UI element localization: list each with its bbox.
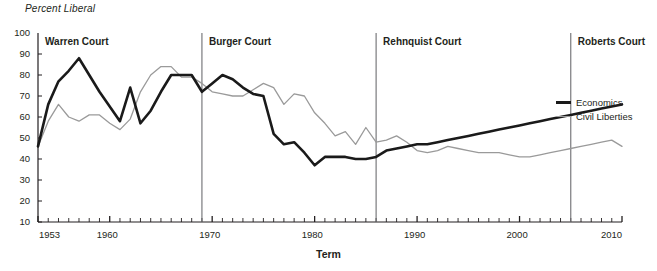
x-tick-label: 1953 — [39, 230, 60, 240]
x-axis-title: Term — [0, 248, 657, 260]
y-tick-label: 10 — [4, 217, 30, 227]
legend-item-civil-liberties: Civil Liberties — [556, 110, 633, 123]
chart-legend: Economics Civil Liberties — [556, 96, 633, 124]
y-axis-title: Percent Liberal — [25, 3, 95, 14]
y-tick-label: 80 — [4, 70, 30, 80]
series-line-civil-liberties — [38, 67, 622, 157]
y-tick-label: 100 — [4, 28, 30, 38]
legend-label-economics: Economics — [576, 97, 622, 108]
legend-swatch-economics-icon — [556, 101, 571, 104]
legend-item-economics: Economics — [556, 96, 633, 109]
y-tick-label: 60 — [4, 112, 30, 122]
era-label-burger-court: Burger Court — [209, 36, 271, 47]
x-tick-label: 2000 — [507, 230, 528, 240]
era-label-roberts-court: Roberts Court — [578, 36, 645, 47]
x-tick-label: 1970 — [199, 230, 220, 240]
series-line-economics — [38, 58, 622, 165]
legend-swatch-civil-liberties-icon — [556, 116, 571, 117]
x-tick-label: 1960 — [97, 230, 118, 240]
x-tick-label: 1990 — [404, 230, 425, 240]
y-tick-label: 90 — [4, 49, 30, 59]
y-tick-label: 40 — [4, 154, 30, 164]
legend-label-civil-liberties: Civil Liberties — [576, 111, 633, 122]
x-tick-label: 2010 — [601, 230, 622, 240]
y-tick-label: 70 — [4, 91, 30, 101]
y-tick-label: 30 — [4, 175, 30, 185]
y-tick-label: 50 — [4, 133, 30, 143]
chart-container: Percent Liberal Term Economics Civil Lib… — [0, 0, 657, 271]
y-tick-label: 20 — [4, 196, 30, 206]
era-label-rehnquist-court: Rehnquist Court — [383, 36, 461, 47]
x-tick-label: 1980 — [302, 230, 323, 240]
era-label-warren-court: Warren Court — [45, 36, 109, 47]
